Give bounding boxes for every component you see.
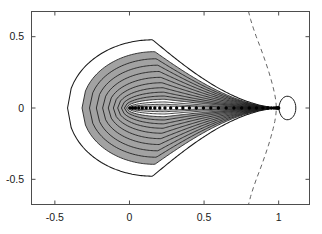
trail-marker-18 bbox=[224, 106, 227, 109]
trail-marker-12 bbox=[181, 106, 184, 109]
trail-marker-24 bbox=[266, 106, 269, 109]
trail-marker-5 bbox=[144, 106, 147, 109]
trail-marker-9 bbox=[163, 106, 166, 109]
trail-marker-14 bbox=[195, 106, 198, 109]
y-tick-label-1: 0 bbox=[18, 102, 24, 114]
x-tick-label-0: -0.5 bbox=[46, 211, 64, 223]
trail-marker-21 bbox=[248, 106, 251, 109]
trail-marker-17 bbox=[217, 106, 220, 109]
trail-marker-2 bbox=[134, 106, 137, 109]
x-tick-label-3: 1 bbox=[276, 211, 282, 223]
x-tick-label-2: 0.5 bbox=[197, 211, 212, 223]
trail-marker-10 bbox=[169, 106, 172, 109]
trail-marker-8 bbox=[158, 106, 161, 109]
trail-marker-11 bbox=[175, 106, 178, 109]
trail-marker-13 bbox=[188, 106, 191, 109]
trail-marker-16 bbox=[209, 106, 212, 109]
trail-marker-4 bbox=[141, 106, 144, 109]
x-tick-label-1: 0 bbox=[127, 211, 133, 223]
trail-marker-19 bbox=[232, 106, 235, 109]
trail-marker-1 bbox=[131, 106, 134, 109]
trail-marker-7 bbox=[153, 106, 156, 109]
trail-marker-20 bbox=[240, 106, 243, 109]
marker-trail-layer bbox=[128, 106, 280, 109]
trail-marker-3 bbox=[137, 106, 140, 109]
contour-plot: -0.500.51-0.500.5 bbox=[0, 0, 322, 234]
trail-marker-6 bbox=[149, 106, 152, 109]
figure-container: -0.500.51-0.500.5 bbox=[0, 0, 322, 234]
trail-marker-22 bbox=[255, 106, 258, 109]
trail-marker-15 bbox=[202, 106, 205, 109]
trail-marker-23 bbox=[261, 106, 264, 109]
trail-marker-31 bbox=[277, 106, 280, 109]
y-tick-label-2: 0.5 bbox=[9, 30, 24, 42]
y-tick-label-0: -0.5 bbox=[6, 173, 24, 185]
